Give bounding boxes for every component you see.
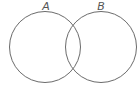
set-b-circle [66, 12, 137, 83]
venn-diagram: A B [0, 0, 138, 89]
set-a-label: A [41, 0, 50, 13]
set-b-label: B [97, 0, 105, 13]
set-a-circle [10, 12, 81, 83]
